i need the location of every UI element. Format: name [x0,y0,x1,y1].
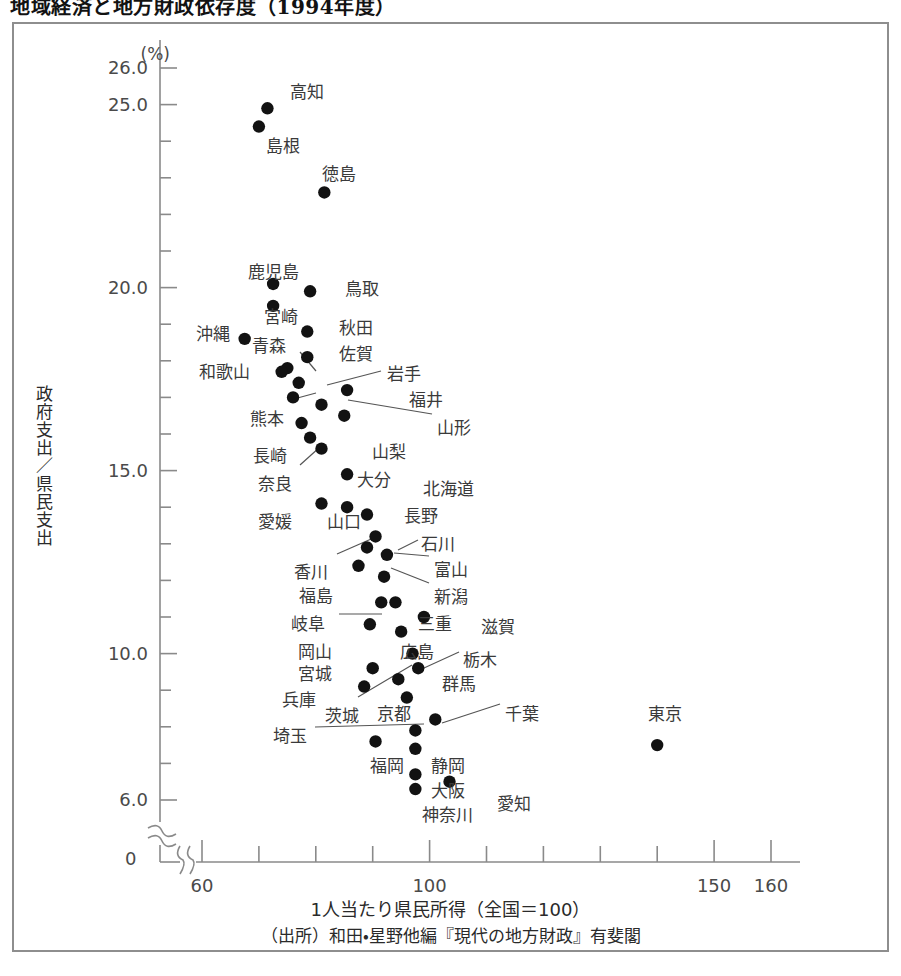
data-point [395,625,407,637]
data-point-label: 静岡 [431,752,465,777]
data-point-label: 青森 [252,332,286,357]
x-axis-title: 1人当たり県民所得（全国＝100） [0,895,901,921]
y-tick-label: 25.0 [78,94,148,115]
data-point [338,410,350,422]
data-point [287,391,299,403]
axes-group [148,40,800,874]
data-point-label: 奈良 [258,470,292,495]
data-point [429,713,441,725]
data-point [293,377,305,389]
data-point [341,384,353,396]
data-point-label: 鳥取 [345,275,379,300]
data-point-label: 富山 [434,556,468,581]
data-point [358,680,370,692]
data-point-label: 愛媛 [258,508,292,533]
data-point [304,285,316,297]
data-point-label: 岩手 [387,360,421,385]
data-point [318,186,330,198]
data-point-label: 北海道 [423,475,474,500]
y-unit-label: (%) [100,44,170,64]
data-point-label: 沖縄 [196,320,230,345]
data-point-label: 鹿児島 [248,258,299,283]
data-point-label: 千葉 [505,700,539,725]
data-point-label: 山口 [327,508,361,533]
data-point-label: 愛知 [497,790,531,815]
y-tick-label: 20.0 [78,277,148,298]
data-point-label: 長崎 [253,442,287,467]
data-point-label: 京都 [377,700,411,725]
data-point [304,431,316,443]
data-point [341,468,353,480]
data-point-label: 長野 [404,502,438,527]
data-point [275,366,287,378]
data-point-label: 高知 [290,78,324,103]
scatter-plot: 26.025.020.015.010.06.0 60100150160 高知島根… [0,0,901,976]
data-point [315,442,327,454]
chart-page: 地域経済と地方財政依存度（1994年度） 26.025.020.015.010.… [0,0,901,976]
data-point-label: 大阪 [431,777,465,802]
data-point [301,351,313,363]
source-note: （出所）和田・星野他編『現代の地方財政』有斐閣 [0,922,901,947]
data-point-label: 埼玉 [273,722,307,747]
data-point-label: 福島 [299,582,333,607]
data-point-label: 神奈川 [422,801,473,826]
data-point [364,618,376,630]
x-tick-label: 160 [731,875,811,896]
data-point [253,120,265,132]
data-point [352,560,364,572]
data-point-label: 東京 [648,700,682,725]
data-point-label: 石川 [421,530,455,555]
data-point [412,662,424,674]
data-point-label: 佐賀 [339,340,373,365]
data-point-label: 滋賀 [481,613,515,638]
data-point-label: 福井 [409,386,443,411]
y-tick-label: 10.0 [78,643,148,664]
data-point [651,739,663,751]
data-point [301,325,313,337]
data-point-label: 山形 [437,414,471,439]
data-point [315,497,327,509]
data-point-label: 熊本 [250,405,284,430]
data-point [361,541,373,553]
data-point-label: 宮崎 [264,303,298,328]
data-point [367,662,379,674]
origin-label: 0 [125,848,136,869]
data-point-label: 和歌山 [199,358,250,383]
data-point-label: 岐阜 [291,610,325,635]
data-point [295,417,307,429]
data-point [361,508,373,520]
data-point [378,571,390,583]
data-point [315,399,327,411]
y-tick-label: 6.0 [78,789,148,810]
data-point-label: 栃木 [463,646,497,671]
data-point [369,530,381,542]
data-point-label: 茨城 [325,702,359,727]
data-point [409,724,421,736]
y-tick-label: 15.0 [78,460,148,481]
data-point-label: 三重 [418,610,452,635]
data-point [409,783,421,795]
data-point [369,735,381,747]
data-point [389,596,401,608]
data-point [409,768,421,780]
data-point-label: 宮城 [298,660,332,685]
data-point-label: 秋田 [339,314,373,339]
data-point [392,673,404,685]
data-point-label: 徳島 [322,160,356,185]
y-axis-title: 政府支出／県民支出 [27,385,53,547]
data-point-label: 大分 [357,466,391,491]
x-tick-label: 100 [390,875,470,896]
data-point-label: 福岡 [370,752,404,777]
data-point [381,549,393,561]
data-point-label: 新潟 [434,583,468,608]
data-point-label: 香川 [294,558,328,583]
data-point-label: 山梨 [372,438,406,463]
data-point-label: 島根 [266,132,300,157]
data-point-label: 群馬 [442,670,476,695]
data-point [261,102,273,114]
data-point [375,596,387,608]
x-tick-label: 60 [162,875,242,896]
data-point-label: 兵庫 [282,686,316,711]
data-point [409,743,421,755]
data-point [238,333,250,345]
